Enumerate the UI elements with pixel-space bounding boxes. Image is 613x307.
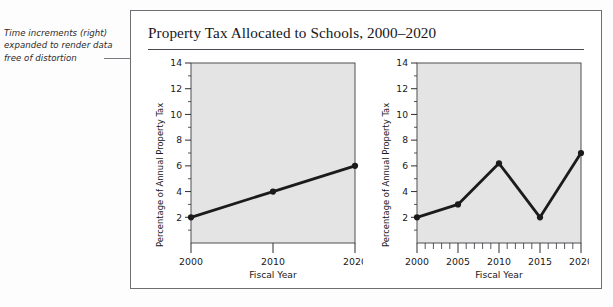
svg-text:2010: 2010 <box>261 256 285 267</box>
svg-text:6: 6 <box>402 160 408 171</box>
x-axis-title-left: Fiscal Year <box>191 269 355 280</box>
svg-text:14: 14 <box>170 57 182 68</box>
svg-text:12: 12 <box>396 83 408 94</box>
svg-text:2020: 2020 <box>343 256 363 267</box>
svg-text:2000: 2000 <box>405 256 429 267</box>
chart-panel-left: Percentage of Annual Property Tax <box>145 57 363 281</box>
svg-text:2: 2 <box>176 212 182 223</box>
svg-text:6: 6 <box>176 160 182 171</box>
svg-text:2005: 2005 <box>446 256 470 267</box>
line-chart-left: 14 12 10 8 6 4 2 2000 2010 2020 <box>145 57 363 281</box>
svg-text:2: 2 <box>402 212 408 223</box>
svg-text:2020: 2020 <box>569 256 589 267</box>
figure-frame: Property Tax Allocated to Schools, 2000–… <box>130 10 602 289</box>
title-rule <box>148 49 584 50</box>
line-chart-right: 14 12 10 8 6 4 2 <box>371 57 589 281</box>
svg-text:2010: 2010 <box>487 256 511 267</box>
y-axis-title-right: Percentage of Annual Property Tax <box>381 103 391 247</box>
svg-text:8: 8 <box>176 134 182 145</box>
y-axis-title-left: Percentage of Annual Property Tax <box>155 103 165 247</box>
x-axis-title-right: Fiscal Year <box>417 269 581 280</box>
svg-text:2015: 2015 <box>528 256 552 267</box>
svg-text:10: 10 <box>170 109 182 120</box>
svg-text:12: 12 <box>170 83 182 94</box>
chart-panel-right: Percentage of Annual Property Tax <box>371 57 589 281</box>
margin-annotation: Time increments (right) expanded to rend… <box>4 27 116 64</box>
svg-text:14: 14 <box>396 57 408 68</box>
svg-text:2000: 2000 <box>179 256 203 267</box>
figure-title: Property Tax Allocated to Schools, 2000–… <box>148 24 436 42</box>
svg-text:4: 4 <box>402 186 408 197</box>
svg-text:8: 8 <box>402 134 408 145</box>
svg-text:10: 10 <box>396 109 408 120</box>
svg-text:4: 4 <box>176 186 182 197</box>
